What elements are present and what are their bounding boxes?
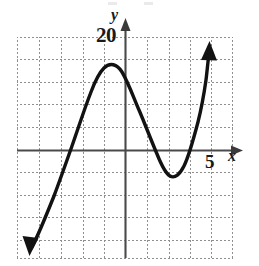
curve-right-arrowhead — [201, 41, 217, 61]
y-axis-label: y — [111, 7, 118, 23]
curve-left-arrowhead — [23, 236, 39, 256]
graph-figure: 20 5 y x — [0, 0, 259, 266]
x-axis-label: x — [228, 148, 236, 164]
x-axis-tick-label-5: 5 — [205, 152, 215, 171]
cubic-curve — [23, 41, 218, 256]
coordinate-plane — [0, 0, 259, 266]
y-axis-tick-label-20: 20 — [96, 25, 116, 46]
y-axis — [121, 18, 131, 258]
y-axis-arrowhead — [121, 18, 131, 31]
